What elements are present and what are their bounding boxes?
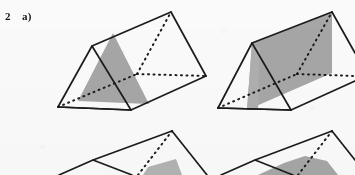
figure-page: 2 a): [0, 0, 355, 175]
prism-bottom-right: [221, 131, 355, 175]
prism-top-left: [58, 12, 206, 110]
prism-top-right: [218, 12, 355, 110]
prism-2-shaded-plane: [247, 12, 332, 110]
prism-3-visible-edges: [59, 131, 207, 175]
prisms-diagram: [0, 0, 355, 175]
prism-bottom-left: [59, 131, 207, 175]
